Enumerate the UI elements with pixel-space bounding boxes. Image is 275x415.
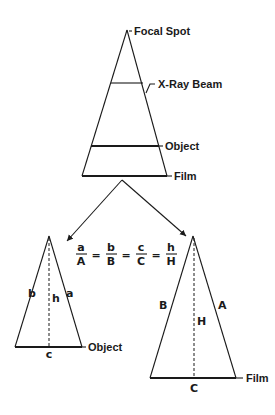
svg-text:h: h [167,241,175,254]
svg-text:=: = [151,249,160,262]
arrow-to-large-triangle [122,180,186,236]
large-film-label: Film [246,372,269,384]
small-object-label: Object [88,341,123,353]
svg-text:C: C [137,255,145,268]
arrow-to-small-triangle [67,180,122,241]
svg-text:c: c [138,241,145,254]
svg-text:A: A [77,255,86,268]
large-height-H-label: H [197,315,206,328]
large-side-A-label: A [218,299,227,312]
svg-text:a: a [77,241,84,254]
large-base-C-label: C [190,382,198,395]
beam-leader-line [146,84,155,93]
film-label: Film [174,170,197,182]
small-height-h-label: h [52,292,60,305]
svg-text:b: b [107,241,115,254]
svg-text:=: = [91,249,100,262]
object-label: Object [165,140,200,152]
ratio-equation: a A = b B = c C = h H [76,241,177,268]
similar-triangles-diagram: Focal Spot X-Ray Beam Object Film a A = … [0,0,275,415]
xray-beam-label: X-Ray Beam [158,78,222,90]
large-side-B-label: B [159,299,167,312]
small-side-b-label: b [28,287,36,300]
xray-beam-cone [82,30,167,176]
small-side-a-label: a [66,287,73,300]
svg-text:H: H [166,255,175,268]
small-triangle [15,236,86,347]
svg-text:B: B [107,255,115,268]
small-base-c-label: c [46,348,53,361]
focal-spot-label: Focal Spot [134,25,191,37]
svg-text:=: = [121,249,130,262]
